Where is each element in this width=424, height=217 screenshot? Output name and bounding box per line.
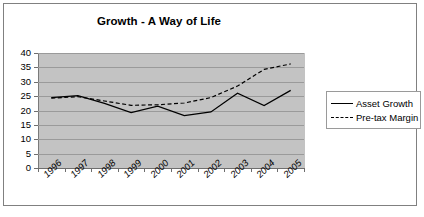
y-axis-tick-label: 20 bbox=[20, 106, 31, 116]
y-axis-tick-label: 10 bbox=[20, 134, 31, 144]
chart-screenshot: Growth - A Way of Life 4035302520151050 … bbox=[0, 0, 424, 217]
series-line-asset-growth bbox=[51, 90, 290, 115]
x-axis-tick bbox=[251, 168, 252, 172]
y-axis-tick-label: 40 bbox=[20, 48, 31, 58]
chart-legend: Asset Growth Pre-tax Margin bbox=[326, 91, 421, 129]
x-axis-tick bbox=[38, 168, 39, 172]
legend-label: Pre-tax Margin bbox=[353, 112, 418, 123]
plot-area bbox=[38, 53, 304, 168]
legend-label: Asset Growth bbox=[353, 98, 413, 109]
x-axis-tick bbox=[171, 168, 172, 172]
y-axis-tick-label: 25 bbox=[20, 91, 31, 101]
legend-line-solid-icon bbox=[331, 99, 353, 108]
y-axis-tick-label: 0 bbox=[26, 163, 31, 173]
legend-line-dashed-icon bbox=[331, 113, 353, 122]
legend-item-pre-tax-margin: Pre-tax Margin bbox=[331, 110, 417, 124]
x-axis-tick bbox=[65, 168, 66, 172]
y-axis-tick-label: 35 bbox=[20, 62, 31, 72]
x-axis-tick bbox=[198, 168, 199, 172]
x-axis-tick bbox=[304, 168, 305, 172]
series-layer bbox=[38, 53, 304, 168]
chart-frame: Growth - A Way of Life 4035302520151050 … bbox=[3, 3, 417, 206]
x-axis-tick bbox=[118, 168, 119, 172]
series-line-pre-tax-margin bbox=[51, 64, 290, 105]
legend-item-asset-growth: Asset Growth bbox=[331, 96, 417, 110]
chart-title: Growth - A Way of Life bbox=[4, 15, 314, 27]
x-axis-tick bbox=[91, 168, 92, 172]
y-axis-tick-label: 15 bbox=[20, 120, 31, 130]
y-axis-tick-label: 30 bbox=[20, 77, 31, 87]
y-axis-tick-label: 5 bbox=[26, 149, 31, 159]
y-axis: 4035302520151050 bbox=[4, 48, 34, 173]
x-axis-tick bbox=[144, 168, 145, 172]
x-axis-tick bbox=[224, 168, 225, 172]
x-axis-tick bbox=[277, 168, 278, 172]
